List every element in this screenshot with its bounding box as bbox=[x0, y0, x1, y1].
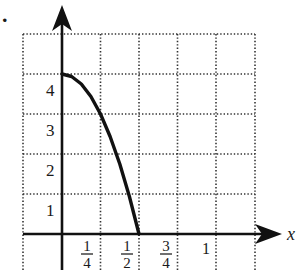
x-tick-1: 1 bbox=[202, 240, 210, 257]
x-tick-half: 1 2 bbox=[121, 238, 133, 270]
svg-text:4: 4 bbox=[83, 255, 91, 270]
y-tick-labels: 4 3 2 1 bbox=[46, 81, 55, 220]
x-tick-quarter: 1 4 bbox=[81, 238, 93, 270]
svg-text:1: 1 bbox=[83, 238, 91, 254]
svg-text:4: 4 bbox=[162, 255, 170, 270]
problem-marker: . bbox=[2, 2, 8, 27]
y-tick-1: 1 bbox=[46, 201, 55, 220]
y-tick-2: 2 bbox=[46, 161, 55, 180]
function-graph: . 4 3 2 1 1 4 1 bbox=[0, 0, 300, 270]
x-axis-label: x bbox=[286, 224, 295, 244]
svg-text:1: 1 bbox=[123, 238, 131, 254]
y-tick-3: 3 bbox=[46, 121, 55, 140]
svg-text:3: 3 bbox=[162, 238, 170, 254]
x-tick-three-quarters: 3 4 bbox=[160, 238, 172, 270]
y-tick-4: 4 bbox=[46, 81, 55, 100]
axes bbox=[23, 5, 282, 270]
svg-text:2: 2 bbox=[123, 255, 131, 270]
